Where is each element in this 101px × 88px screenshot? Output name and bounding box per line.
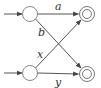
state-f2 <box>80 67 95 82</box>
label-y: y <box>54 76 62 88</box>
edge-y <box>38 73 79 74</box>
label-a: a <box>55 0 62 13</box>
label-b: b <box>38 26 45 39</box>
state-f1 <box>80 7 95 22</box>
label-x: x <box>37 48 44 61</box>
automaton-diagram: a b x y <box>0 0 101 88</box>
